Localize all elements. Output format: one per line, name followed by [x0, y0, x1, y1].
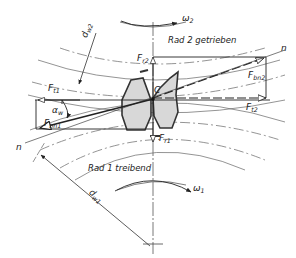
line-of-action-label-left: n	[16, 143, 22, 152]
ft2-label: Ft2	[246, 103, 258, 113]
omega2-label: ω2	[182, 14, 194, 24]
omega2-arrow	[121, 21, 177, 26]
fr1-label: Fr1	[159, 134, 171, 144]
fr2-label: Fr2	[137, 54, 149, 64]
ft1-label: Ft1	[48, 84, 60, 94]
line-of-action-label-right: n	[281, 44, 287, 53]
pitch-point-label: C	[154, 86, 160, 95]
pitch-point-c	[151, 97, 155, 101]
omega1-label: ω1	[193, 184, 205, 194]
gear1-label: Rad 1 treibend	[88, 164, 151, 173]
dw2-dimension-line	[79, 33, 96, 84]
gear2-label: Rad 2 getrieben	[168, 36, 236, 45]
fbn1-label: Fbn1	[44, 119, 61, 129]
pressure-angle-label: αw	[52, 106, 63, 116]
fbn2-label: Fbn2	[248, 71, 265, 81]
dw1-extension	[33, 142, 45, 162]
